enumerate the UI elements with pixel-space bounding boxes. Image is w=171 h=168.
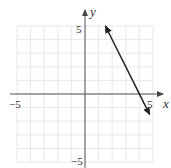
- y-axis-label: y: [88, 4, 96, 19]
- y-max-label: 5: [76, 23, 82, 35]
- x-max-label: 5: [147, 98, 153, 110]
- y-min-label: −5: [71, 155, 83, 167]
- x-min-label: −5: [9, 98, 21, 110]
- coordinate-graph: −5 5 x 5 −5 y: [0, 0, 171, 168]
- x-axis-label: x: [162, 96, 169, 111]
